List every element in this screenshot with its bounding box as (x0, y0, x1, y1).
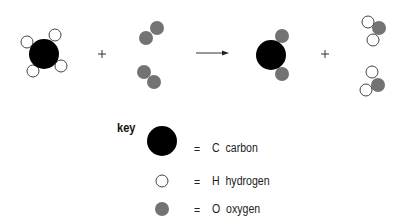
hydrogen-atom (367, 34, 379, 46)
key-equals-oxygen: = (194, 203, 200, 217)
carbon-atom (256, 40, 286, 70)
key-carbon-icon (147, 126, 177, 156)
methane-molecule (21, 29, 67, 77)
key-equals-carbon: = (194, 142, 200, 156)
water-molecule (362, 16, 386, 46)
key-equals-hydrogen: = (194, 175, 200, 189)
hydrogen-atom (366, 66, 378, 78)
hydrogen-atom (360, 84, 372, 96)
hydrogen-atom (49, 29, 61, 41)
carbon-atom (29, 39, 59, 69)
key-label-carbon: C carbon (212, 141, 258, 155)
oxygen-atom (371, 78, 385, 92)
carbon-dioxide-molecule (256, 29, 289, 81)
oxygen-atom (147, 75, 161, 89)
oxygen-atom (150, 21, 164, 35)
oxygen-atom (139, 31, 153, 45)
oxygen-atom (137, 65, 151, 79)
key-legend (147, 126, 177, 216)
reaction-arrow-icon (196, 51, 229, 56)
plus-icon (98, 50, 106, 58)
plus-icon (321, 50, 329, 58)
hydrogen-atom (362, 16, 374, 28)
oxygen-atom (275, 29, 289, 43)
reaction-diagram (0, 0, 402, 224)
key-hydrogen-icon (156, 175, 168, 187)
oxygen-atom (275, 67, 289, 81)
oxygen-molecule (137, 65, 161, 89)
oxygen-molecule (139, 21, 164, 45)
key-label-oxygen: O oxygen (212, 202, 260, 216)
key-title: key (117, 120, 135, 135)
key-label-hydrogen: H hydrogen (212, 174, 270, 188)
water-molecule (360, 66, 385, 96)
key-oxygen-icon (155, 202, 169, 216)
